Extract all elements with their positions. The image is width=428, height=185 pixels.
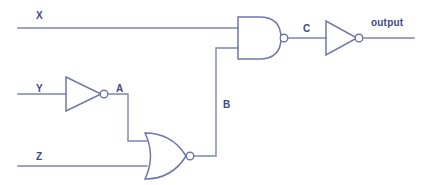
not-gate-inverter-y [66, 77, 108, 111]
wire-b-to-nand [194, 48, 238, 156]
input-label-z: Z [36, 152, 42, 162]
nor-gate-bubble [186, 152, 194, 160]
not-gate-inverter-c [326, 21, 363, 55]
not-gate-triangle [66, 77, 101, 111]
input-label-y: Y [36, 84, 43, 94]
circuit-schematic-svg [0, 0, 428, 185]
logic-circuit-diagram: X Y Z A B C output [0, 0, 428, 185]
node-label-b: B [223, 100, 230, 110]
output-inverter-bubble [355, 34, 363, 42]
nor-gate-body [145, 133, 186, 179]
node-label-a: A [116, 84, 123, 94]
not-gate-bubble [100, 90, 108, 98]
input-label-x: X [36, 11, 43, 21]
nand-gate-body [238, 17, 281, 59]
node-label-c: C [303, 24, 310, 34]
nand-gate-bubble [280, 34, 288, 42]
output-label: output [371, 18, 403, 28]
nand-gate [238, 17, 288, 59]
nor-gate [145, 133, 194, 179]
wire-a-to-nor [107, 94, 147, 141]
output-inverter-triangle [326, 21, 357, 55]
